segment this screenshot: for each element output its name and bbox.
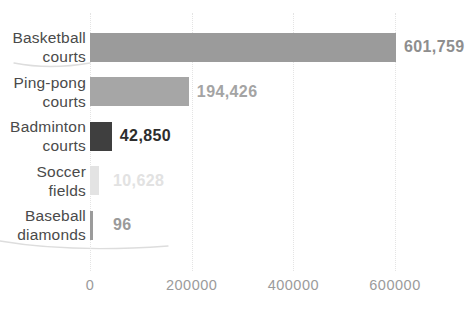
bar-track: 601,759 (90, 25, 395, 70)
category-label: Baseball diamonds (0, 203, 86, 244)
x-axis: 0200000400000600000 (0, 277, 471, 297)
x-tick-label: 0 (86, 277, 95, 293)
bar-row: Ping-pong courts194,426 (0, 70, 471, 115)
bar (90, 211, 93, 240)
bar-row: Basketball courts601,759 (0, 25, 471, 70)
category-label: Soccer fields (0, 159, 86, 200)
chart-rows: Basketball courts601,759Ping-pong courts… (0, 25, 471, 248)
category-label: Badminton courts (0, 114, 86, 155)
x-tick-label: 600000 (369, 277, 420, 293)
bar-row: Soccer fields10,628 (0, 159, 471, 204)
value-label: 96 (113, 211, 132, 240)
value-label: 42,850 (120, 122, 171, 151)
bar-track: 194,426 (90, 70, 395, 115)
bar-track: 10,628 (90, 159, 395, 204)
x-tick-label: 200000 (166, 277, 217, 293)
bar (90, 122, 112, 151)
value-label: 10,628 (113, 166, 164, 195)
bar-row: Badminton courts42,850 (0, 114, 471, 159)
bar (90, 77, 189, 106)
bar (90, 33, 396, 62)
category-label: Ping-pong courts (0, 70, 86, 111)
x-tick-label: 400000 (268, 277, 319, 293)
horizontal-bar-chart: Basketball courts601,759Ping-pong courts… (0, 0, 471, 310)
value-label: 194,426 (197, 77, 258, 106)
category-label: Basketball courts (0, 25, 86, 66)
bar-track: 42,850 (90, 114, 395, 159)
value-label: 601,759 (404, 33, 465, 62)
bar-row: Baseball diamonds96 (0, 203, 471, 248)
bar (90, 166, 99, 195)
bar-track: 96 (90, 203, 395, 248)
